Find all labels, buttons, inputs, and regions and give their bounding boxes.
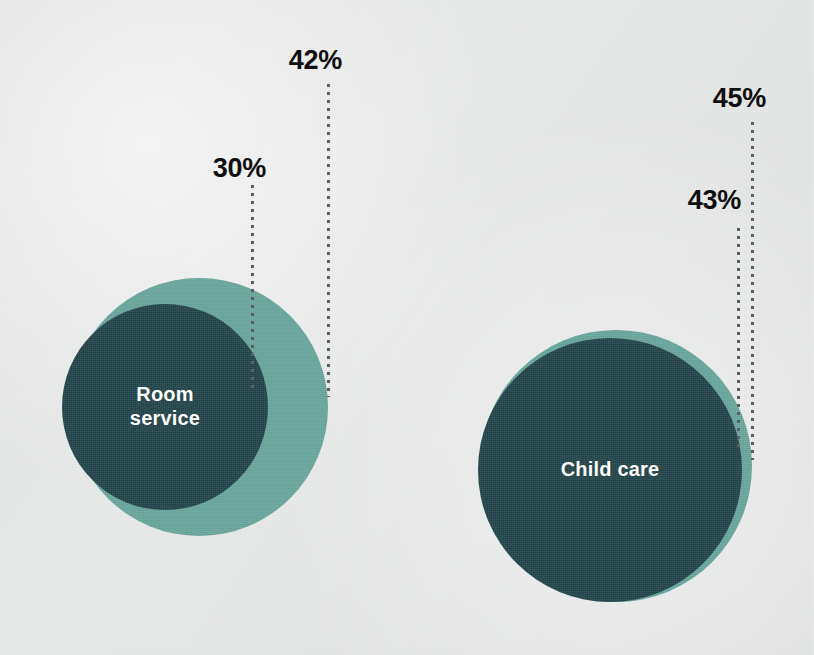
room-service-outer-leader-line	[327, 84, 330, 397]
child-care-outer-value-45: 45%	[713, 83, 766, 114]
child-care-outer-leader-line	[751, 122, 754, 460]
bubble-chart-canvas: Room service 30% 42% Child care 43% 45%	[0, 0, 814, 655]
child-care-inner-circle-43[interactable]: Child care	[478, 338, 742, 602]
room-service-outer-value-42: 42%	[289, 45, 342, 76]
child-care-inner-leader-line	[737, 228, 740, 450]
room-service-inner-leader-line	[251, 185, 254, 388]
room-service-inner-value-30: 30%	[213, 153, 266, 184]
child-care-label: Child care	[561, 458, 660, 482]
child-care-inner-value-43: 43%	[688, 185, 741, 216]
room-service-inner-circle-30[interactable]: Room service	[62, 304, 268, 510]
room-service-label: Room service	[130, 383, 200, 430]
